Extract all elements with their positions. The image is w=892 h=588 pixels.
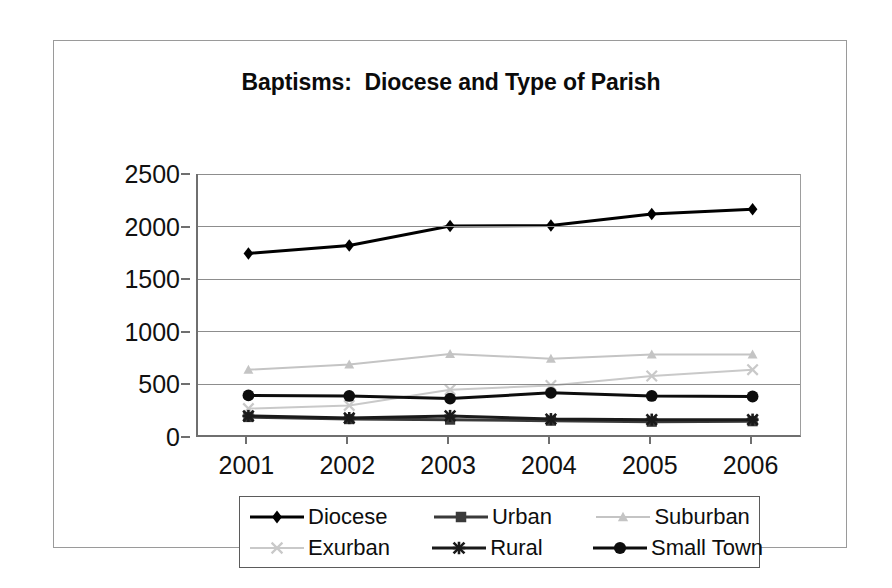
series-line <box>248 370 752 409</box>
y-tick-label-500: 500 <box>138 372 180 397</box>
series-small-town <box>243 387 759 405</box>
x-tick-label-2003: 2003 <box>420 453 476 478</box>
data-point-marker <box>242 410 254 422</box>
series-line <box>248 354 752 370</box>
x-tick-label-2002: 2002 <box>319 453 375 478</box>
x-tick-label-2001: 2001 <box>219 453 275 478</box>
legend-label: Rural <box>488 537 543 559</box>
x-axis: 200120022003200420052006 <box>196 444 801 484</box>
x-marker-icon <box>248 537 306 559</box>
y-tick-mark-500 <box>181 383 190 385</box>
y-axis: 05001000150020002500 <box>114 174 190 437</box>
y-tick-mark-2500 <box>181 173 190 175</box>
legend-label: Diocese <box>306 506 387 528</box>
legend-label: Suburban <box>652 506 749 528</box>
series-suburban <box>243 349 757 374</box>
data-point-marker <box>344 239 354 251</box>
x-tick-mark-2003 <box>447 437 449 444</box>
legend-row: DioceseUrbanSuburban <box>248 501 751 532</box>
data-point-marker <box>243 390 255 402</box>
x-tick-mark-2006 <box>750 437 752 444</box>
legend-item-small-town[interactable]: Small Town <box>591 537 751 559</box>
y-tick-label-2500: 2500 <box>124 162 180 187</box>
series-diocese <box>244 203 758 260</box>
legend-label: Exurban <box>306 537 390 559</box>
y-tick-mark-1000 <box>181 331 190 333</box>
series-line <box>248 209 752 253</box>
circle-marker-icon <box>591 537 649 559</box>
x-tick-label-2005: 2005 <box>622 453 678 478</box>
series-layer <box>198 174 803 437</box>
x-tick-label-2004: 2004 <box>521 453 577 478</box>
x-tick-mark-2005 <box>649 437 651 444</box>
plot-area <box>196 174 801 437</box>
y-tick-mark-0 <box>181 436 190 438</box>
chart-figure: Baptisms: Diocese and Type of Parish 050… <box>0 0 892 588</box>
series-rural <box>242 410 758 426</box>
y-tick-label-0: 0 <box>166 425 180 450</box>
y-tick-mark-2000 <box>181 226 190 228</box>
chart-legend: DioceseUrbanSuburbanExurbanRuralSmall To… <box>239 496 760 568</box>
legend-item-suburban[interactable]: Suburban <box>594 506 751 528</box>
data-point-marker <box>244 247 254 259</box>
data-point-marker <box>343 412 355 424</box>
x-tick-mark-2004 <box>548 437 550 444</box>
y-tick-label-1500: 1500 <box>124 267 180 292</box>
series-exurban <box>243 364 758 413</box>
legend-item-urban[interactable]: Urban <box>432 506 594 528</box>
legend-row: ExurbanRuralSmall Town <box>248 532 751 563</box>
data-point-marker <box>747 414 759 426</box>
data-point-marker <box>747 391 759 403</box>
x-tick-label-2006: 2006 <box>723 453 779 478</box>
triangle-marker-icon <box>594 506 652 528</box>
chart-title: Baptisms: Diocese and Type of Parish <box>54 69 848 96</box>
data-point-marker <box>444 410 456 422</box>
star-marker-icon <box>430 537 488 559</box>
data-point-marker <box>545 387 557 399</box>
legend-label: Urban <box>490 506 552 528</box>
square-marker-icon <box>432 506 490 528</box>
data-point-marker <box>748 203 758 215</box>
data-point-marker <box>545 413 557 425</box>
data-point-marker <box>546 219 556 231</box>
chart-border-frame: Baptisms: Diocese and Type of Parish 050… <box>53 40 847 548</box>
legend-item-rural[interactable]: Rural <box>430 537 591 559</box>
y-tick-mark-1500 <box>181 278 190 280</box>
data-point-marker <box>646 390 658 402</box>
diamond-marker-icon <box>248 506 306 528</box>
x-tick-mark-2002 <box>346 437 348 444</box>
data-point-marker <box>343 390 355 402</box>
legend-item-exurban[interactable]: Exurban <box>248 537 430 559</box>
data-point-marker <box>444 393 456 405</box>
y-tick-label-1000: 1000 <box>124 319 180 344</box>
legend-label: Small Town <box>649 537 763 559</box>
y-tick-label-2000: 2000 <box>124 214 180 239</box>
x-tick-mark-2001 <box>245 437 247 444</box>
data-point-marker <box>646 414 658 426</box>
legend-item-diocese[interactable]: Diocese <box>248 506 432 528</box>
series-line <box>248 393 752 399</box>
data-point-marker <box>647 208 657 220</box>
data-point-marker <box>445 220 455 232</box>
